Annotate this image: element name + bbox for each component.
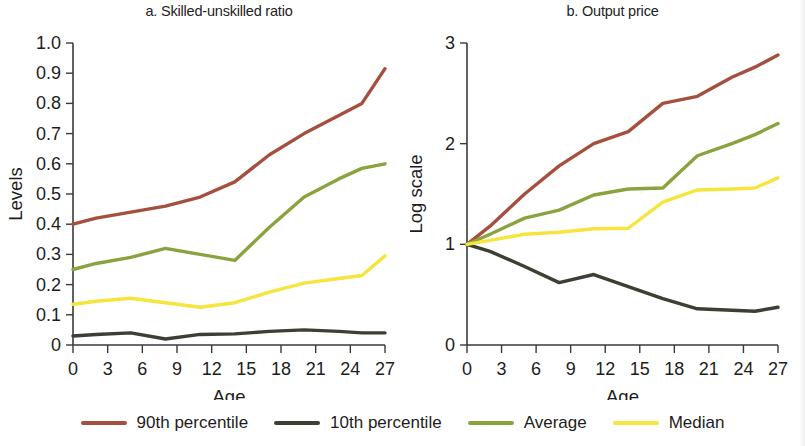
x-tick-label: 27 [768, 359, 788, 379]
series-line-10th-percentile [467, 244, 778, 311]
series-line-90th-percentile [73, 69, 385, 225]
panel-a-plot: 00.10.20.30.40.50.60.70.80.91.0036912151… [0, 0, 410, 400]
x-tick-label: 3 [497, 359, 507, 379]
legend-item: Average [468, 413, 587, 433]
series-line-90th-percentile [467, 55, 778, 244]
y-tick-label: 0.5 [36, 184, 61, 204]
x-tick-label: 21 [699, 359, 719, 379]
legend-swatch-icon [274, 421, 320, 425]
legend-swatch-icon [468, 421, 514, 425]
y-tick-label: 0.4 [36, 214, 61, 234]
panel-b-plot: 01230369121518212427AgeLog scale [410, 0, 805, 400]
x-tick-label: 6 [531, 359, 541, 379]
x-tick-label: 18 [664, 359, 684, 379]
x-tick-label: 15 [630, 359, 650, 379]
x-tick-label: 3 [103, 359, 113, 379]
x-tick-label: 18 [271, 359, 291, 379]
panel-output-price: b. Output price 01230369121518212427AgeL… [410, 0, 805, 400]
panel-a-title: a. Skilled-unskilled ratio [0, 3, 410, 19]
y-tick-label: 0.8 [36, 93, 61, 113]
y-tick-label: 3 [445, 33, 455, 53]
legend-label: 90th percentile [137, 413, 249, 433]
legend-label: 10th percentile [330, 413, 442, 433]
series-line-median [73, 256, 385, 307]
panel-b-title: b. Output price [410, 3, 805, 19]
series-line-10th-percentile [73, 330, 385, 339]
legend-item: 90th percentile [81, 413, 249, 433]
x-tick-label: 24 [340, 359, 360, 379]
y-tick-label: 0 [445, 335, 455, 355]
y-tick-label: 0 [51, 335, 61, 355]
x-axis-title: Age [606, 386, 639, 400]
legend-item: Median [613, 413, 725, 433]
legend-swatch-icon [81, 421, 127, 425]
x-tick-label: 27 [375, 359, 395, 379]
legend-item: 10th percentile [274, 413, 442, 433]
x-tick-label: 0 [68, 359, 78, 379]
x-tick-label: 24 [733, 359, 753, 379]
y-tick-label: 0.6 [36, 154, 61, 174]
y-tick-label: 0.3 [36, 244, 61, 264]
x-tick-label: 12 [202, 359, 222, 379]
y-axis-title: Levels [5, 167, 26, 220]
legend-label: Median [669, 413, 725, 433]
y-tick-label: 0.2 [36, 275, 61, 295]
legend-label: Average [524, 413, 587, 433]
y-tick-label: 2 [445, 134, 455, 154]
x-tick-label: 12 [595, 359, 615, 379]
y-tick-label: 0.7 [36, 124, 61, 144]
x-tick-label: 21 [306, 359, 326, 379]
legend-swatch-icon [613, 421, 659, 425]
y-tick-label: 0.9 [36, 63, 61, 83]
x-tick-label: 9 [566, 359, 576, 379]
chart-legend: 90th percentile10th percentileAverageMed… [0, 400, 805, 446]
panel-skilled-unskilled-ratio: a. Skilled-unskilled ratio 00.10.20.30.4… [0, 0, 410, 400]
y-tick-label: 0.1 [36, 305, 61, 325]
y-tick-label: 1 [445, 234, 455, 254]
x-axis-title: Age [213, 386, 246, 400]
chart-panels: a. Skilled-unskilled ratio 00.10.20.30.4… [0, 0, 805, 400]
x-tick-label: 15 [236, 359, 256, 379]
y-axis-title: Log scale [410, 154, 426, 233]
y-tick-label: 1.0 [36, 33, 61, 53]
x-tick-label: 9 [172, 359, 182, 379]
series-line-median [467, 178, 778, 244]
figure-container: a. Skilled-unskilled ratio 00.10.20.30.4… [0, 0, 805, 446]
series-line-average [467, 124, 778, 245]
x-tick-label: 6 [137, 359, 147, 379]
series-line-average [73, 164, 385, 270]
x-tick-label: 0 [462, 359, 472, 379]
